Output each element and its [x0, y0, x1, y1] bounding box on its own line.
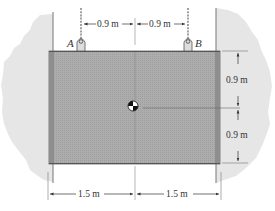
dim-top-right: 0.9 m: [149, 19, 171, 29]
dim-right-lower: 0.9 m: [226, 130, 248, 140]
support-A: A: [66, 8, 85, 51]
right-wall: [216, 8, 272, 183]
left-wall: [1, 12, 53, 183]
dimension-bottom: 1.5 m 1.5 m: [48, 166, 221, 200]
dim-bottom-left: 1.5 m: [78, 189, 100, 199]
point-label-A: A: [66, 37, 74, 49]
support-B: B: [184, 8, 202, 51]
dim-top-left: 0.9 m: [97, 19, 119, 29]
dim-bottom-right: 1.5 m: [166, 189, 188, 199]
center-of-gravity-icon: [128, 101, 138, 111]
dimension-top: 0.9 m 0.9 m: [84, 18, 185, 45]
point-label-B: B: [195, 37, 202, 49]
dim-right-upper: 0.9 m: [226, 75, 248, 85]
plate: [49, 51, 240, 164]
plate-diagram: A B 0.9 m 0.9 m 0.9 m 0.9 m 1.5 m: [0, 0, 275, 211]
